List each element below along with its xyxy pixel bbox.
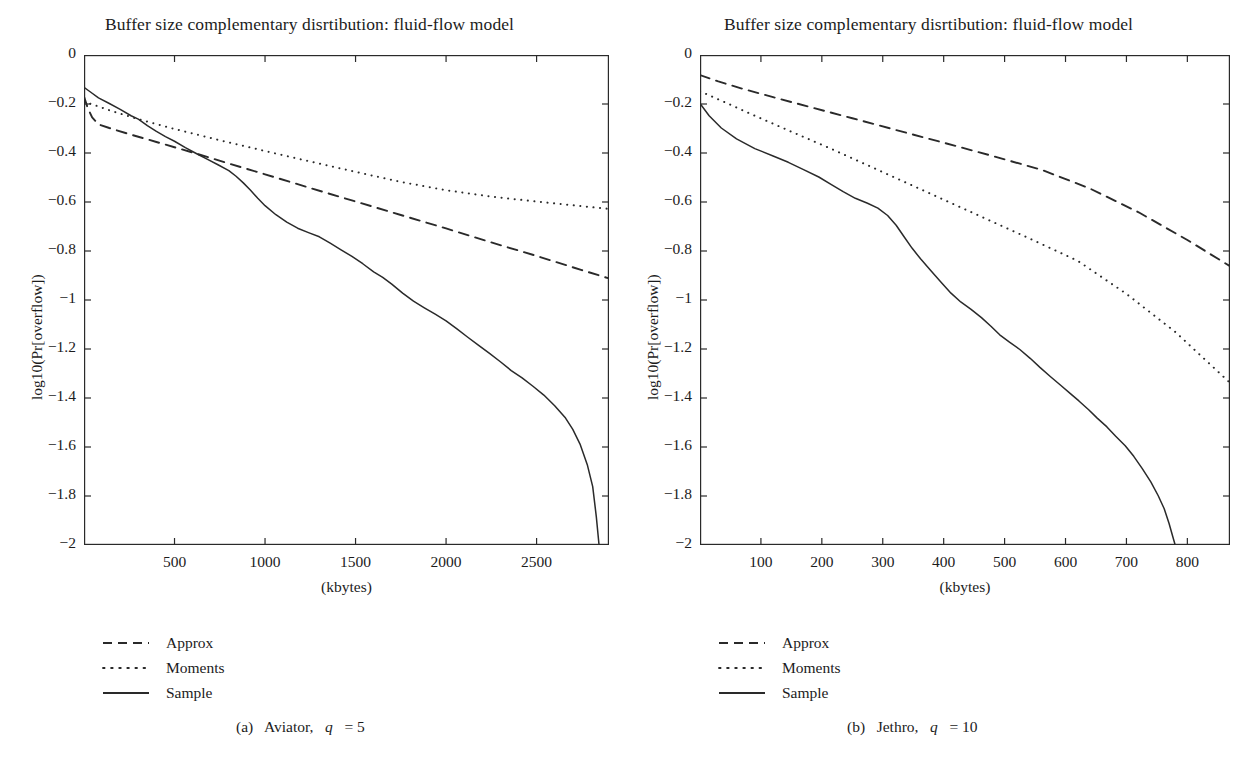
panel-b: Buffer size complementary disrtibution: … (619, 0, 1238, 770)
x-tick-label: 2500 (497, 553, 577, 571)
panel-a-legend: Approx Moments Sample (102, 630, 225, 705)
panel-b-subcaption-eq: = 10 (949, 718, 977, 735)
panel-a-subcaption: (a) Aviator, q = 5 (236, 718, 365, 736)
panel-b-plot-svg (700, 55, 1230, 545)
y-tick-label: −1.2 (634, 338, 692, 356)
legend-item-moments: Moments (718, 655, 841, 680)
y-tick-label: −0.4 (634, 142, 692, 160)
y-tick-label: −0.2 (18, 93, 76, 111)
legend-label-approx: Approx (782, 634, 829, 652)
y-tick-label: −2 (634, 534, 692, 552)
y-tick-label: 0 (634, 44, 692, 62)
figure-root: Buffer size complementary disrtibution: … (0, 0, 1239, 770)
x-tick-label: 1500 (316, 553, 396, 571)
x-tick-label: 800 (1147, 553, 1227, 571)
panel-a-plot-svg (84, 55, 609, 545)
y-tick-label: −1.6 (18, 436, 76, 454)
series-approx (84, 97, 609, 279)
y-tick-label: −1.8 (18, 485, 76, 503)
panel-a: Buffer size complementary disrtibution: … (0, 0, 619, 770)
panel-a-subcaption-eq: = 5 (344, 718, 364, 735)
y-tick-label: −1.4 (18, 387, 76, 405)
panel-a-y-axis-label: log10(Pr[overflow]) (28, 274, 46, 400)
panel-b-x-axis-label: (kbytes) (700, 578, 1230, 596)
legend-item-sample: Sample (718, 680, 841, 705)
y-tick-label: −0.6 (18, 191, 76, 209)
y-tick-label: −1.2 (18, 338, 76, 356)
series-sample (84, 87, 599, 545)
legend-item-approx: Approx (102, 630, 225, 655)
y-tick-label: −1.4 (634, 387, 692, 405)
y-tick-label: −1 (634, 289, 692, 307)
y-tick-label: −0.4 (18, 142, 76, 160)
panel-b-subcaption: (b) Jethro, q = 10 (847, 718, 978, 736)
series-approx (700, 75, 1230, 266)
y-tick-label: 0 (18, 44, 76, 62)
y-tick-label: −1 (18, 289, 76, 307)
y-tick-label: −1.8 (634, 485, 692, 503)
solid-line-icon (718, 686, 766, 700)
y-tick-label: −0.2 (634, 93, 692, 111)
x-tick-label: 2000 (406, 553, 486, 571)
legend-item-moments: Moments (102, 655, 225, 680)
panel-b-plot (700, 55, 1230, 545)
series-moments (84, 102, 609, 209)
panel-b-subcaption-name: Jethro, (877, 718, 919, 735)
panel-a-subcaption-prefix: (a) (236, 718, 253, 735)
panel-b-subcaption-prefix: (b) (847, 718, 865, 735)
dotted-line-icon (718, 661, 766, 675)
legend-label-moments: Moments (782, 659, 841, 677)
series-sample (700, 104, 1175, 545)
panel-a-x-axis-label: (kbytes) (84, 578, 609, 596)
panel-a-subcaption-var: q (325, 718, 333, 735)
dashed-line-icon (102, 636, 150, 650)
panel-b-subcaption-var: q (930, 718, 938, 735)
panel-a-plot (84, 55, 609, 545)
panel-a-subcaption-name: Aviator, (264, 718, 313, 735)
panel-b-legend: Approx Moments Sample (718, 630, 841, 705)
series-moments (700, 91, 1230, 383)
x-tick-label: 1000 (225, 553, 305, 571)
panel-b-title: Buffer size complementary disrtibution: … (619, 14, 1238, 35)
y-tick-label: −1.6 (634, 436, 692, 454)
y-tick-label: −0.6 (634, 191, 692, 209)
y-tick-label: −0.8 (634, 240, 692, 258)
legend-label-approx: Approx (166, 634, 213, 652)
x-tick-label: 500 (135, 553, 215, 571)
legend-item-sample: Sample (102, 680, 225, 705)
y-tick-label: −2 (18, 534, 76, 552)
dashed-line-icon (718, 636, 766, 650)
solid-line-icon (102, 686, 150, 700)
dotted-line-icon (102, 661, 150, 675)
legend-label-sample: Sample (166, 684, 213, 702)
legend-label-sample: Sample (782, 684, 829, 702)
panel-a-title: Buffer size complementary disrtibution: … (0, 14, 619, 35)
y-tick-label: −0.8 (18, 240, 76, 258)
panel-b-y-axis-label: log10(Pr[overflow]) (644, 274, 662, 400)
legend-item-approx: Approx (718, 630, 841, 655)
legend-label-moments: Moments (166, 659, 225, 677)
